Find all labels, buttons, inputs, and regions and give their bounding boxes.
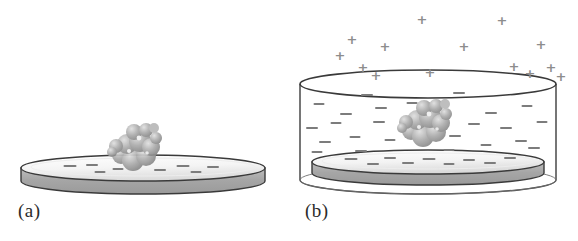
positive-ion: + [525,67,536,80]
negative-ion [375,107,387,109]
negative-ion [481,144,492,146]
positive-ion: + [556,70,567,83]
negative-ion [407,102,418,104]
panel-a: (a) [0,0,289,241]
negative-ion [500,127,512,129]
positive-ion: + [380,40,391,53]
negative-ion [319,141,331,143]
negative-ion [385,139,396,141]
negative-ion [444,149,455,151]
negative-ion [314,103,325,105]
negative-ion [312,151,323,153]
positive-ion: + [497,14,508,27]
panel-label-a: (a) [18,200,41,222]
surface-negative-charge [367,163,379,165]
negative-ion [306,127,318,129]
surface-negative-charge [191,171,202,173]
positive-ion: + [335,49,346,62]
negative-ion [528,147,540,149]
negative-ion [522,105,533,107]
surface-negative-charge [154,169,166,171]
positive-ion: + [347,33,358,46]
figure-container: (a) [0,0,578,241]
surface-negative-charge [86,164,98,166]
surface-negative-charge [113,168,124,170]
negative-ion [453,92,465,94]
negative-ion [361,94,373,96]
surface-negative-charge [463,159,475,161]
surface-negative-charge [64,165,77,167]
panel-label-b: (b) [305,200,329,222]
positive-ion: + [536,38,547,51]
negative-ion [373,121,385,123]
negative-ion [340,113,352,115]
positive-ion: + [358,61,369,74]
positive-ion: + [425,66,436,79]
negative-ion [515,140,527,142]
negative-ion [468,123,480,125]
positive-ion: + [417,13,428,26]
negative-ion [485,112,497,114]
positive-ion: + [371,69,382,82]
negative-ion [537,121,548,123]
positive-ion: + [509,60,520,73]
panel-b: ++++++++++++++ (b) [289,0,578,241]
negative-ion [449,135,461,137]
positive-ion: + [459,40,470,53]
substrate-disk-b [312,150,544,185]
surface-negative-charge [402,162,414,164]
negative-ion [350,136,361,138]
negative-ion [331,122,342,124]
molecule-cluster-b [397,99,452,147]
surface-negative-charge [95,171,106,173]
surface-negative-charge [423,158,436,160]
disk-top-face-b [312,150,544,174]
surface-negative-charge [504,157,516,159]
surface-negative-charge [345,158,358,160]
panel-a-graphics [0,0,289,241]
surface-negative-charge [177,165,190,167]
negative-ion [355,150,367,152]
surface-negative-charge [444,163,455,165]
surface-negative-charge [384,157,396,159]
surface-negative-charge [484,162,496,164]
surface-negative-charge [207,166,219,168]
